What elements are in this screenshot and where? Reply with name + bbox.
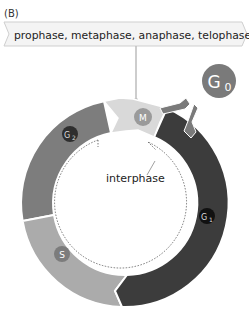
- g2-badge-label: G: [64, 131, 70, 140]
- cell-cycle-diagram: (B) prophase, metaphase, anaphase, telop…: [0, 0, 249, 317]
- g2-segment: [21, 101, 111, 221]
- g2-badge-sub: 2: [72, 134, 76, 141]
- g0-sub: 0: [225, 81, 232, 94]
- g1-badge-label: G: [201, 213, 207, 222]
- g1-badge-sub: 1: [209, 216, 213, 223]
- panel-label: (B): [4, 8, 19, 19]
- s-badge-label: S: [59, 250, 65, 260]
- interphase-dotted-arc: [55, 140, 187, 268]
- s-segment: [23, 215, 127, 307]
- g0-label: G: [207, 72, 220, 92]
- interphase-label: interphase: [106, 172, 165, 185]
- g1-segment: [115, 108, 229, 307]
- g0-exit-arrow: [160, 98, 190, 114]
- m-badge-label: M: [139, 113, 147, 123]
- mitosis-banner-text: prophase, metaphase, anaphase, telophase: [14, 29, 249, 42]
